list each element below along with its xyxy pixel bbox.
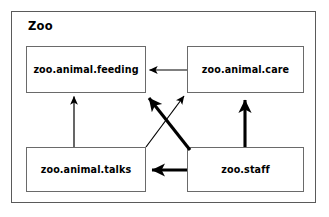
package-zoo-animal-care[interactable]: zoo.animal.care [187, 46, 304, 93]
package-zoo-title: Zoo [28, 19, 53, 33]
diagram-canvas: Zoo zoo.animal.feeding zoo.animal.care z… [0, 0, 329, 217]
package-zoo-animal-talks[interactable]: zoo.animal.talks [26, 147, 146, 192]
package-label-feeding: zoo.animal.feeding [33, 64, 138, 75]
package-zoo-staff[interactable]: zoo.staff [187, 147, 304, 192]
package-zoo-animal-feeding[interactable]: zoo.animal.feeding [26, 46, 146, 93]
package-label-care: zoo.animal.care [202, 64, 289, 75]
package-label-staff: zoo.staff [221, 164, 269, 175]
package-label-talks: zoo.animal.talks [41, 164, 131, 175]
